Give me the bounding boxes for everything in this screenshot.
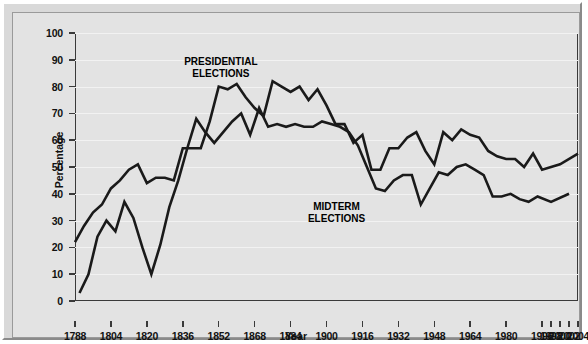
x-tick-mark	[218, 321, 220, 327]
x-tick-mark	[550, 321, 552, 327]
x-tick-mark	[568, 321, 570, 327]
y-tick-label: 50	[52, 161, 63, 173]
y-axis-title-host: Percentage	[23, 105, 37, 215]
series-lines	[75, 33, 578, 301]
x-tick-mark	[469, 321, 471, 327]
x-tick-mark	[505, 321, 507, 327]
x-tick-mark	[559, 321, 561, 327]
outer-bevel-frame: Percentage 0102030405060708090100 178818…	[2, 2, 582, 340]
y-tick-label: 80	[52, 81, 63, 93]
annotation-line-2: ELECTIONS	[308, 213, 365, 225]
x-tick-mark	[434, 321, 436, 327]
x-tick-mark	[541, 321, 543, 327]
x-tick-mark	[74, 321, 76, 327]
x-tick-mark	[398, 321, 400, 327]
y-tick-label: 0	[57, 295, 63, 307]
series-annotation: PRESIDENTIALELECTIONS	[184, 56, 257, 80]
x-tick-mark	[577, 321, 579, 327]
y-tick-label: 40	[52, 188, 63, 200]
y-tick-label: 20	[52, 241, 63, 253]
y-tick-label: 30	[52, 215, 63, 227]
y-tick-label: 10	[52, 268, 63, 280]
chart-screenshot: Percentage 0102030405060708090100 178818…	[0, 0, 588, 344]
annotation-line-1: PRESIDENTIAL	[184, 56, 257, 68]
inner-panel: Percentage 0102030405060708090100 178818…	[12, 12, 580, 338]
x-tick-mark	[182, 321, 184, 327]
y-tick-label: 60	[52, 134, 63, 146]
x-axis-title: Year	[13, 330, 579, 342]
plot-area: 0102030405060708090100 17881804182018361…	[75, 33, 578, 301]
annotation-line-2: ELECTIONS	[184, 68, 257, 80]
x-tick-mark	[254, 321, 256, 327]
x-tick-mark	[146, 321, 148, 327]
x-tick-mark	[362, 321, 364, 327]
y-tick-label: 90	[52, 54, 63, 66]
x-tick-mark	[290, 321, 292, 327]
x-tick-mark	[326, 321, 328, 327]
y-tick-label: 100	[46, 27, 63, 39]
y-tick-label: 70	[52, 107, 63, 119]
annotation-line-1: MIDTERM	[308, 201, 365, 213]
series-annotation: MIDTERMELECTIONS	[308, 201, 365, 225]
x-tick-mark	[110, 321, 112, 327]
